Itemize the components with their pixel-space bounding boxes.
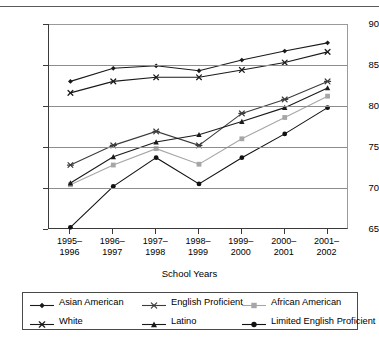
series-line [70, 96, 327, 185]
marker-square [282, 115, 287, 120]
legend-marker-triangle-icon [141, 316, 167, 327]
y-tick-mark-65 [43, 229, 48, 230]
legend-label: Limited English Proficient [271, 316, 375, 327]
legend-item-limited-english-proficient[interactable]: Limited English Proficient [241, 312, 375, 331]
y-tick-label-90: 90 [337, 19, 379, 29]
marker-asterisk [67, 163, 73, 168]
chart-legend: Asian AmericanEnglish ProficientAfrican … [22, 292, 358, 330]
legend-row-1: Asian AmericanEnglish ProficientAfrican … [23, 293, 357, 312]
marker-triangle [325, 85, 330, 90]
legend-label: White [59, 316, 83, 327]
marker-square [239, 136, 244, 141]
marker-circle [239, 155, 244, 160]
marker-square [197, 162, 202, 167]
y-tick-label-65: 65 [337, 224, 379, 234]
marker-diamond [325, 40, 330, 45]
x-tick-label-6: 2001–2002 [298, 236, 356, 257]
x-tick-mark-4 [241, 229, 242, 234]
y-tick-label-80: 80 [337, 101, 379, 111]
line-chart: 908580757065 1995–19961996–19971997–1998… [0, 14, 379, 234]
marker-asterisk [239, 111, 245, 116]
x-tick-mark-5 [284, 229, 285, 234]
marker-asterisk [153, 129, 159, 134]
legend-item-latino[interactable]: Latino [141, 312, 196, 331]
marker-asterisk [282, 97, 288, 102]
legend-label: English Proficient [171, 297, 243, 308]
legend-marker-square-icon [241, 297, 267, 308]
legend-label: African American [271, 297, 341, 308]
marker-asterisk [151, 303, 158, 308]
y-tick-label-70: 70 [337, 183, 379, 193]
marker-diamond [239, 58, 244, 63]
y-tick-mark-80 [43, 106, 48, 107]
marker-square [325, 94, 330, 99]
x-tick-mark-0 [69, 229, 70, 234]
gridline-75 [49, 147, 347, 148]
legend-label: Latino [171, 316, 196, 327]
y-tick-mark-75 [43, 147, 48, 148]
marker-asterisk [325, 79, 331, 84]
series-line [70, 43, 327, 82]
x-axis-title: School Years [0, 268, 379, 279]
gridline-80 [49, 106, 347, 107]
series-english-proficient [67, 79, 330, 167]
series-layer [49, 24, 349, 229]
legend-marker-asterisk-icon [141, 297, 167, 308]
legend-label: Asian American [59, 297, 124, 308]
series-latino [68, 85, 331, 185]
legend-item-white[interactable]: White [29, 312, 83, 331]
marker-diamond [68, 79, 73, 84]
plot-area [48, 24, 348, 229]
x-tick-label-line: 2001– [298, 236, 356, 247]
gridline-85 [49, 65, 347, 66]
x-tick-mark-3 [198, 229, 199, 234]
marker-diamond [39, 303, 44, 308]
chart-page: 908580757065 1995–19961996–19971997–1998… [0, 0, 379, 347]
marker-diamond [111, 66, 116, 71]
legend-marker-diamond-icon [29, 297, 55, 308]
marker-diamond [197, 68, 202, 73]
y-tick-mark-85 [43, 65, 48, 66]
y-tick-label-75: 75 [337, 142, 379, 152]
top-divider-rule [0, 6, 379, 7]
legend-item-african-american[interactable]: African American [241, 293, 341, 312]
marker-diamond [282, 49, 287, 54]
legend-marker-x-icon [29, 316, 55, 327]
x-tick-mark-2 [155, 229, 156, 234]
marker-circle [197, 182, 202, 187]
series-line [70, 81, 327, 165]
y-tick-mark-70 [43, 188, 48, 189]
marker-circle [282, 131, 287, 136]
marker-square [251, 303, 256, 308]
x-tick-mark-6 [327, 229, 328, 234]
legend-row-2: WhiteLatinoLimited English Proficient [23, 312, 357, 331]
legend-item-asian-american[interactable]: Asian American [29, 293, 124, 312]
y-tick-label-85: 85 [337, 60, 379, 70]
marker-circle [251, 322, 256, 327]
marker-square [111, 163, 116, 168]
x-tick-mark-1 [112, 229, 113, 234]
legend-item-english-proficient[interactable]: English Proficient [141, 293, 243, 312]
x-tick-label-line: 2002 [298, 247, 356, 258]
series-african-american [68, 94, 330, 187]
marker-circle [154, 155, 159, 160]
y-tick-mark-90 [43, 24, 48, 25]
legend-marker-circle-icon [241, 316, 267, 327]
gridline-70 [49, 188, 347, 189]
